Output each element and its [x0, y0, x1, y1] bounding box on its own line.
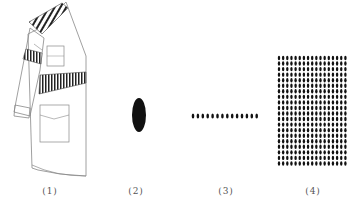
dot-grid-icon	[0, 0, 356, 208]
caption-panel-4: (4)	[305, 186, 321, 196]
caption-panel-3: (3)	[218, 186, 234, 196]
caption-panel-1: (1)	[42, 186, 58, 196]
caption-panel-2: (2)	[128, 186, 144, 196]
